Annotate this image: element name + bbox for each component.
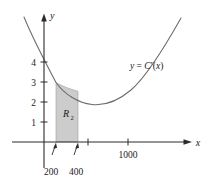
curve-label-close-paren: ): [160, 61, 163, 72]
region-label-subscript: 2: [71, 114, 74, 121]
marginal-cost-figure: y x 4 3 2 1 200 400 1000 R 2 y = C′(x): [0, 0, 213, 189]
x-tick-label-400: 400: [69, 167, 84, 177]
y-tick-label-2: 2: [31, 98, 36, 108]
x-tick-label-1000: 1000: [119, 150, 138, 160]
y-tick-label-4: 4: [31, 58, 36, 68]
x-pointer-400: [74, 143, 79, 156]
y-axis-arrowhead: [41, 14, 47, 22]
y-tick-label-3: 3: [31, 78, 36, 88]
plot-canvas: y x 4 3 2 1 200 400 1000 R 2 y = C′(x): [0, 0, 213, 189]
y-axis-label: y: [49, 10, 55, 21]
curve-label: y = C′(x): [129, 61, 163, 72]
x-pointer-200: [52, 143, 57, 156]
x-axis-arrowhead: [184, 139, 193, 145]
svg-text:y = C′(x): y = C′(x): [129, 61, 163, 72]
y-tick-label-1: 1: [31, 118, 36, 128]
curve-label-equals: =: [134, 61, 144, 71]
x-tick-label-200: 200: [44, 167, 59, 177]
region-label-letter: R: [62, 108, 69, 119]
x-axis-label: x: [195, 137, 201, 148]
